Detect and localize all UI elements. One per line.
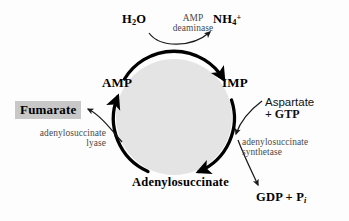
- purine-nucleotide-cycle-figure: H2O AMP deaminase NH4+ AMP IMP Fumarate …: [0, 0, 349, 221]
- gdp-text: GDP + P: [256, 190, 304, 204]
- branch-water-to-ammonium: [149, 32, 210, 44]
- branch-aspartate-in: [236, 101, 262, 134]
- label-amp: AMP: [102, 76, 132, 90]
- synthetase-line-1: adenylosuccinate: [242, 137, 346, 147]
- water-symbol: H: [122, 12, 132, 26]
- label-adenylosuccinate: Adenylosuccinate: [132, 176, 229, 190]
- label-aspartate-gtp: Aspartate + GTP: [265, 96, 314, 121]
- water-oxygen: O: [136, 12, 146, 26]
- gtp-text: + GTP: [265, 108, 314, 121]
- ammonium-charge: +: [236, 13, 241, 22]
- enzyme-adenylosuccinate-synthetase: adenylosuccinate synthetase: [242, 137, 346, 157]
- label-fumarate-wrapper: Fumarate: [15, 100, 81, 117]
- synthetase-line-2: synthetase: [242, 147, 346, 157]
- label-gdp-pi: GDP + Pi: [256, 191, 307, 205]
- lyase-line-1: adenylosuccinate: [8, 128, 106, 138]
- phosphate-subscript: i: [304, 196, 307, 205]
- cycle-disc: [116, 59, 232, 175]
- ammonium-symbol: NH: [213, 12, 232, 26]
- label-fumarate: Fumarate: [15, 101, 81, 119]
- label-ammonium: NH4+: [213, 13, 241, 27]
- enzyme-adenylosuccinate-lyase: adenylosuccinate lyase: [8, 128, 106, 148]
- label-water: H2O: [122, 13, 146, 27]
- lyase-line-2: lyase: [8, 138, 106, 148]
- label-imp: IMP: [222, 76, 248, 90]
